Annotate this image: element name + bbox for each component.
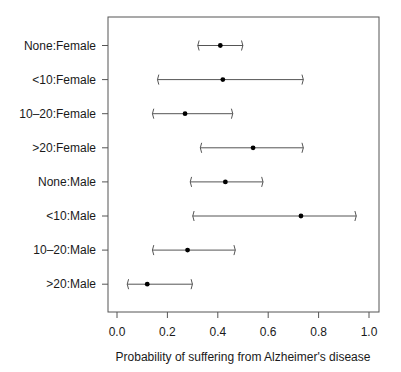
x-axis: 0.00.20.40.60.81.0 xyxy=(109,312,378,339)
x-tick-label: 0.6 xyxy=(260,325,277,339)
interval-row xyxy=(198,41,243,51)
interval-row xyxy=(200,143,303,153)
point-estimate xyxy=(299,214,304,219)
x-tick-label: 0.0 xyxy=(109,325,126,339)
interval-row xyxy=(127,279,193,289)
y-tick-label: <10:Male xyxy=(46,209,96,223)
point-estimate xyxy=(185,248,190,253)
interval-row xyxy=(152,245,235,255)
interval-row xyxy=(152,109,233,119)
x-tick-label: 0.8 xyxy=(310,325,327,339)
plot-frame xyxy=(108,17,379,312)
intervals xyxy=(127,41,356,290)
interval-row xyxy=(193,211,357,221)
forest-plot: 0.00.20.40.60.81.0 None:Female<10:Female… xyxy=(0,0,401,372)
point-estimate xyxy=(183,111,188,116)
y-tick-label: >20:Female xyxy=(32,141,96,155)
point-estimate xyxy=(218,43,223,48)
y-tick-label: >20:Male xyxy=(46,277,96,291)
y-tick-label: None:Female xyxy=(24,39,96,53)
interval-row xyxy=(190,177,263,187)
y-axis: None:Female<10:Female10–20:Female>20:Fem… xyxy=(19,39,108,292)
point-estimate xyxy=(220,77,225,82)
x-tick-label: 0.2 xyxy=(159,325,176,339)
point-estimate xyxy=(223,180,228,185)
x-axis-title: Probability of suffering from Alzheimer'… xyxy=(116,350,371,364)
y-tick-label: None:Male xyxy=(38,175,96,189)
y-tick-label: <10:Female xyxy=(32,73,96,87)
interval-row xyxy=(157,75,303,85)
x-tick-label: 0.4 xyxy=(209,325,226,339)
y-tick-label: 10–20:Male xyxy=(33,243,96,257)
x-tick-label: 1.0 xyxy=(361,325,378,339)
y-tick-label: 10–20:Female xyxy=(19,107,96,121)
point-estimate xyxy=(145,282,150,287)
point-estimate xyxy=(251,145,256,150)
